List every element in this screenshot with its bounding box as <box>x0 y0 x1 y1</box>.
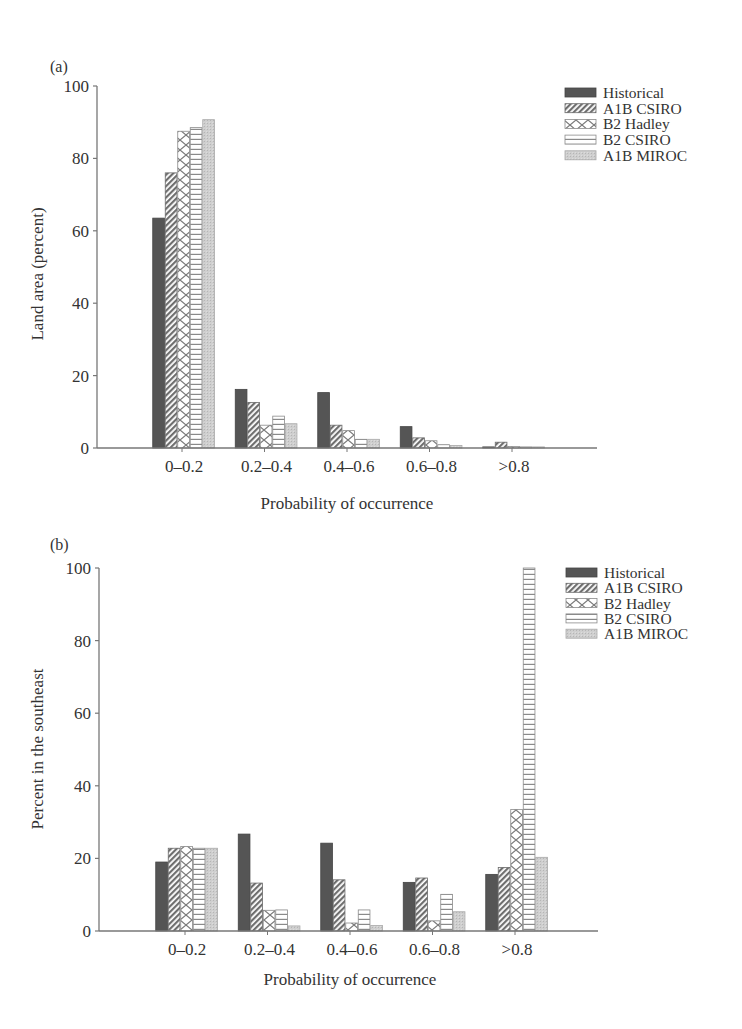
legend-swatch <box>565 104 596 113</box>
y-tick-label: 20 <box>72 367 89 386</box>
bar <box>355 439 367 448</box>
bar <box>441 894 453 931</box>
bar <box>276 910 288 931</box>
legend-swatch <box>565 88 596 97</box>
bars-a <box>153 120 545 448</box>
bar <box>403 882 415 931</box>
bar <box>425 441 437 448</box>
legend-label: B2 CSIRO <box>603 131 671 148</box>
x-tick-label: 0.2–0.4 <box>241 457 293 476</box>
bar <box>333 880 345 931</box>
panel-label-b: (b) <box>50 536 69 554</box>
bar <box>536 857 548 931</box>
bar <box>400 427 412 448</box>
bar <box>156 862 168 931</box>
chart-panel-b: (b) 020406080100 0–0.20.2–0.40.4–0.60.6–… <box>28 536 688 989</box>
bar <box>263 910 275 931</box>
y-tick-label: 60 <box>74 704 91 723</box>
x-tick-label: 0.4–0.6 <box>327 940 378 959</box>
bar <box>248 402 260 448</box>
x-tick-label: 0–0.2 <box>168 940 206 959</box>
legend-swatch <box>566 599 597 608</box>
figure-canvas: (a) 020406080100 0–0.20.2–0.40.4–0.60.6–… <box>0 0 742 1029</box>
bar <box>358 910 370 931</box>
x-tick-label: 0.2–0.4 <box>244 940 296 959</box>
bar <box>453 912 465 931</box>
x-axis-b: 0–0.20.2–0.40.4–0.60.6–0.8>0.8 <box>99 931 598 959</box>
bar <box>238 834 250 931</box>
y-axis-a: 020406080100 <box>64 77 98 458</box>
legend-label: A1B MIROC <box>604 625 688 642</box>
y-tick-label: 0 <box>81 439 90 458</box>
x-axis-label-a: Probability of occurrence <box>261 494 434 513</box>
bar <box>203 120 215 448</box>
bar <box>498 867 510 931</box>
legend-label: B2 Hadley <box>603 115 670 132</box>
bar <box>165 173 177 448</box>
x-tick-label: 0.6–0.8 <box>409 940 460 959</box>
legend-swatch <box>566 629 597 638</box>
bar <box>428 921 440 931</box>
x-tick-label: 0.6–0.8 <box>406 457 457 476</box>
legend-label: A1B MIROC <box>603 147 687 164</box>
bar <box>193 848 205 931</box>
x-axis-a: 0–0.20.2–0.40.4–0.60.6–0.8>0.8 <box>97 448 597 476</box>
bars-b <box>156 568 548 931</box>
y-axis-b: 020406080100 <box>66 559 100 941</box>
bar <box>260 425 272 448</box>
legend-swatch <box>566 614 597 623</box>
bar <box>330 425 342 448</box>
x-tick-label: 0–0.2 <box>165 457 203 476</box>
x-tick-label: >0.8 <box>502 940 533 959</box>
legend-a: HistoricalA1B CSIROB2 HadleyB2 CSIROA1B … <box>565 84 687 164</box>
bar <box>346 923 358 931</box>
bar <box>288 926 300 931</box>
bar <box>318 393 330 448</box>
legend-swatch <box>566 568 597 577</box>
y-tick-label: 80 <box>74 632 91 651</box>
bar <box>181 846 193 931</box>
chart-panel-a: (a) 020406080100 0–0.20.2–0.40.4–0.60.6–… <box>28 58 687 513</box>
bar <box>511 809 523 931</box>
legend-swatch <box>565 151 596 160</box>
y-axis-label-a: Land area (percent) <box>28 207 47 340</box>
bar <box>285 424 297 448</box>
y-tick-label: 80 <box>72 149 89 168</box>
bar <box>495 442 507 448</box>
panel-label-a: (a) <box>50 58 68 76</box>
legend-b: HistoricalA1B CSIROB2 HadleyB2 CSIROA1B … <box>566 564 688 642</box>
bar <box>343 431 355 448</box>
bar <box>413 438 425 448</box>
x-axis-label-b: Probability of occurrence <box>264 970 437 989</box>
legend-swatch <box>566 583 597 592</box>
legend-label: Historical <box>603 84 664 101</box>
bar <box>153 218 165 448</box>
bar <box>190 128 202 448</box>
y-tick-label: 20 <box>74 849 91 868</box>
y-tick-label: 60 <box>72 222 89 241</box>
bar <box>206 848 218 931</box>
bar <box>523 568 535 931</box>
y-tick-label: 0 <box>83 922 92 941</box>
x-tick-label: >0.8 <box>499 457 530 476</box>
bar <box>368 439 380 448</box>
bar <box>273 416 285 448</box>
bar <box>178 131 190 448</box>
bar <box>486 874 498 931</box>
y-tick-label: 40 <box>74 777 91 796</box>
y-tick-label: 100 <box>64 77 90 96</box>
legend-label: A1B CSIRO <box>603 100 682 117</box>
legend-swatch <box>565 135 596 144</box>
y-tick-label: 40 <box>72 294 89 313</box>
bar <box>235 389 247 448</box>
y-tick-label: 100 <box>66 559 92 578</box>
legend-swatch <box>565 119 596 128</box>
bar <box>168 848 180 931</box>
bar <box>321 843 333 931</box>
figure: (a) 020406080100 0–0.20.2–0.40.4–0.60.6–… <box>0 0 742 1029</box>
bar <box>251 883 263 931</box>
bar <box>416 878 428 931</box>
y-axis-label-b: Percent in the southeast <box>28 668 47 829</box>
bar <box>371 926 383 931</box>
x-tick-label: 0.4–0.6 <box>324 457 375 476</box>
